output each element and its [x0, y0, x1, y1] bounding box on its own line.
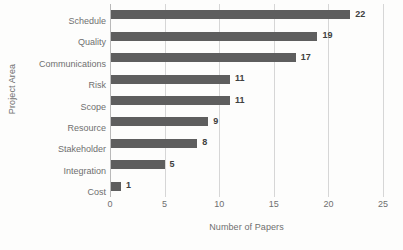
y-axis-tick-label: Integration: [18, 166, 106, 176]
y-axis-tick-label: Risk: [18, 80, 106, 90]
bar: [111, 32, 317, 41]
bar: [111, 10, 350, 19]
bar: [111, 139, 197, 148]
x-axis-tick-label: 10: [204, 199, 234, 209]
bar: [111, 160, 165, 169]
bar: [111, 75, 230, 84]
y-axis-tick-label: Quality: [18, 37, 106, 47]
x-axis-tick-label: 20: [313, 199, 343, 209]
x-axis-title: Number of Papers: [110, 222, 383, 232]
bar: [111, 96, 230, 105]
bar-value-label: 8: [202, 138, 207, 147]
bar-value-label: 19: [322, 31, 332, 40]
gridline: [383, 4, 384, 197]
x-axis-tick-label: 25: [368, 199, 398, 209]
bar-value-label: 11: [235, 74, 245, 83]
x-axis-tick-labels: 0510152025: [110, 199, 383, 213]
bar: [111, 117, 208, 126]
plot-area: 22191711119851: [110, 4, 383, 197]
x-axis-tick-label: 0: [95, 199, 125, 209]
bar-value-label: 9: [213, 117, 218, 126]
bar-value-label: 22: [355, 10, 365, 19]
y-axis-tick-label: Stakeholder: [18, 144, 106, 154]
y-axis-tick-label: Communications: [18, 59, 106, 69]
bar-value-label: 1: [126, 181, 131, 190]
bar-value-label: 11: [235, 96, 245, 105]
y-axis-tick-label: Scope: [18, 102, 106, 112]
x-axis-tick-label: 15: [259, 199, 289, 209]
y-axis-tick-labels: ScheduleQualityCommunicationsRiskScopeRe…: [18, 7, 106, 196]
bar: [111, 53, 296, 62]
bar: [111, 182, 121, 191]
y-axis-tick-label: Schedule: [18, 16, 106, 26]
y-axis-tick-label: Cost: [18, 187, 106, 197]
bar-value-label: 5: [170, 160, 175, 169]
bar-chart: Project Area ScheduleQualityCommunicatio…: [0, 0, 403, 250]
y-axis-title: Project Area: [7, 49, 17, 129]
x-axis-tick-label: 5: [150, 199, 180, 209]
y-axis-tick-label: Resource: [18, 123, 106, 133]
bar-value-label: 17: [301, 53, 311, 62]
